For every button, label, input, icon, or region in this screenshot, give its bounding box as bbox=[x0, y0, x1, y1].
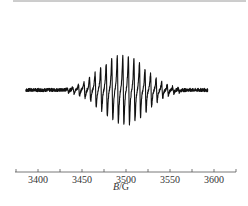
spectrum-trace bbox=[26, 55, 208, 124]
epr-spectrum-chart: 34003450350035503600 B/G bbox=[0, 0, 248, 206]
x-axis-title: B/G bbox=[113, 181, 129, 192]
x-axis-ticks bbox=[16, 169, 236, 172]
x-tick-label: 3400 bbox=[28, 174, 48, 185]
x-axis-title-unit: /G bbox=[119, 181, 129, 192]
x-tick-label: 3550 bbox=[160, 174, 180, 185]
x-tick-label: 3450 bbox=[72, 174, 92, 185]
x-tick-label: 3600 bbox=[204, 174, 224, 185]
